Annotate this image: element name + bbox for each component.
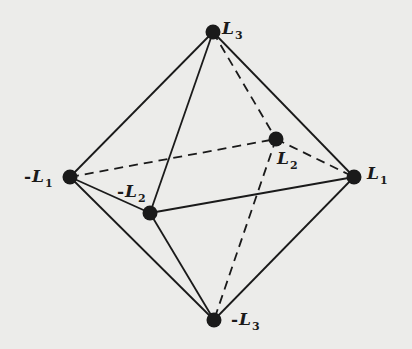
label-subscript: 3 <box>235 29 243 42</box>
label-symbol: L <box>239 309 251 329</box>
vertex-label-neg-l2: -L2 <box>117 183 146 200</box>
vertex-label-l3: L3 <box>222 20 243 37</box>
negative-sign: - <box>117 181 124 201</box>
vertex-neg-l1 <box>63 170 78 185</box>
vertex-neg-l2 <box>143 206 158 221</box>
vertex-l3 <box>206 25 221 40</box>
label-subscript: 2 <box>290 159 298 172</box>
octahedron-edges <box>0 0 412 349</box>
vertex-label-l1: L1 <box>367 165 388 182</box>
vertex-label-neg-l1: -L1 <box>24 168 53 185</box>
label-symbol: L <box>367 163 379 183</box>
vertex-l1 <box>347 170 362 185</box>
negative-sign: - <box>24 166 31 186</box>
negative-sign: - <box>231 309 238 329</box>
octahedron-diagram: L3-L1L1-L2L2-L3 <box>0 0 412 349</box>
vertex-label-neg-l3: -L3 <box>231 311 260 328</box>
label-symbol: L <box>32 166 44 186</box>
vertex-neg-l3 <box>207 313 222 328</box>
label-subscript: 3 <box>252 320 260 333</box>
label-symbol: L <box>277 148 289 168</box>
edge-l3-neg-l2 <box>150 32 213 213</box>
label-subscript: 1 <box>380 174 388 187</box>
label-symbol: L <box>222 18 234 38</box>
label-subscript: 1 <box>45 177 53 190</box>
vertex-label-l2: L2 <box>277 150 298 167</box>
label-subscript: 2 <box>138 192 146 205</box>
label-symbol: L <box>125 181 137 201</box>
edge-l2-neg-l3-dashed <box>214 139 276 320</box>
vertex-l2 <box>269 132 284 147</box>
edge-l3-l2-dashed <box>213 32 276 139</box>
